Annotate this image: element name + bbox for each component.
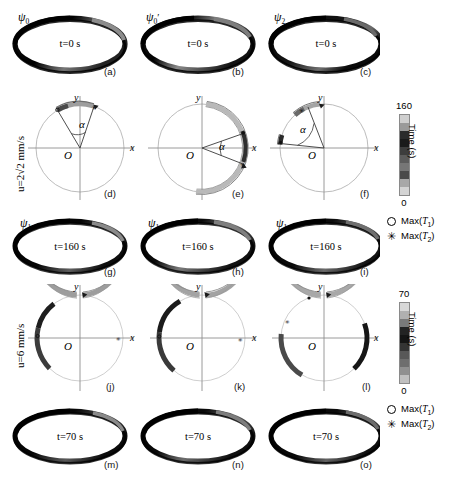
svg-text:✳: ✳ [285, 319, 290, 325]
row-circles-1-graphics: ✳ ✳ [16, 96, 388, 200]
time-label-a: t=0 s [42, 38, 98, 49]
legend-entry-max-t2-b: ✳ Max(T2) [386, 417, 435, 432]
panel-label-j: (j) [106, 381, 115, 392]
time-label-m: t=70 s [40, 431, 100, 442]
axis-origin-label-k: O [186, 340, 194, 352]
svg-text:✳: ✳ [240, 161, 245, 168]
axis-x-label-e: x [252, 142, 256, 153]
axis-origin-label-j: O [64, 340, 72, 352]
axis-origin-label-l: O [308, 340, 316, 352]
colorbar-160-min: 0 [389, 197, 419, 208]
colorbar-segment [400, 359, 409, 367]
axis-y-label-k: y [196, 281, 200, 292]
circle-marker-icon [386, 216, 397, 227]
alpha-label-f: α [300, 123, 306, 135]
colorbar-segment [400, 375, 409, 383]
panel-label-k: (k) [234, 381, 245, 392]
alpha-label-d: α [79, 118, 85, 130]
legend-entry-max-t1-b: Max(T1) [386, 402, 435, 417]
legend-entry-max-t2: ✳ Max(T2) [386, 229, 435, 244]
panel-label-d: (d) [104, 188, 116, 199]
time-label-c: t=0 s [298, 38, 354, 49]
axis-x-label-d: x [130, 142, 134, 153]
time-label-g: t=160 s [38, 241, 102, 252]
colorbar-70-title: Time (s) [407, 312, 418, 346]
legend-label-max-t2: Max(T2) [401, 230, 435, 243]
panel-label-h: (h) [232, 266, 244, 277]
svg-text:✳: ✳ [299, 107, 304, 114]
psi-label-i: ψ1 [276, 216, 287, 232]
time-label-h: t=160 s [166, 241, 230, 252]
colorbar-70-max: 70 [389, 288, 419, 299]
row-circles-2-graphics: ✳ ✳ ✳ [16, 284, 388, 392]
axis-y-label-l: y [318, 281, 322, 292]
colorbar-segment [400, 303, 409, 311]
axis-y-label-j: y [74, 281, 78, 292]
colorbar-160-title: Time (s) [407, 124, 418, 158]
psi-label-h: ψ1 [148, 216, 159, 232]
legend-bottom: Max(T1) ✳ Max(T2) [386, 402, 435, 432]
psi-label-g: ψ1 [20, 216, 31, 232]
axis-origin-label-d: O [64, 149, 72, 161]
psi-label-b: ψ0′ [146, 10, 159, 26]
axis-origin-label-f: O [308, 149, 316, 161]
axis-x-label-j: x [130, 332, 134, 343]
panel-label-c: (c) [360, 66, 371, 77]
psi-label-a: ψ0 [18, 10, 29, 26]
colorbar-segment [400, 171, 409, 179]
panel-label-e: (e) [232, 188, 244, 199]
panel-label-a: (a) [104, 66, 116, 77]
figure-root: ψ0 ψ0′ ψ2 t=0 s t=0 s t=0 s (a) (b) (c) … [0, 0, 451, 485]
time-label-i: t=160 s [294, 241, 358, 252]
legend-label-max-t1-b: Max(T1) [401, 403, 435, 416]
panel-label-g: (g) [104, 266, 116, 277]
time-label-o: t=70 s [296, 431, 356, 442]
legend-entry-max-t1: Max(T1) [386, 214, 435, 229]
legend-label-max-t2-b: Max(T2) [401, 418, 435, 431]
colorbar-segment [400, 163, 409, 171]
axis-origin-label-e: O [186, 149, 194, 161]
legend-top: Max(T1) ✳ Max(T2) [386, 214, 435, 244]
alpha-label-e: α [219, 140, 225, 152]
asterisk-marker-icon: ✳ [386, 419, 397, 430]
svg-text:✳: ✳ [92, 104, 97, 111]
time-label-n: t=70 s [168, 431, 228, 442]
colorbar-segment [400, 187, 409, 195]
axis-x-label-l: x [374, 332, 378, 343]
svg-text:✳: ✳ [116, 336, 121, 342]
colorbar-segment [400, 179, 409, 187]
colorbar-70-min: 0 [389, 385, 419, 396]
panel-label-i: (i) [360, 266, 369, 277]
legend-label-max-t1: Max(T1) [401, 215, 435, 228]
axis-x-label-k: x [252, 332, 256, 343]
time-label-b: t=0 s [170, 38, 226, 49]
axis-y-label-f: y [318, 92, 322, 103]
axis-y-label-d: y [74, 92, 78, 103]
svg-text:✳: ✳ [238, 337, 243, 343]
panel-label-m: (m) [104, 459, 119, 470]
panel-label-l: (l) [362, 381, 371, 392]
panel-label-n: (n) [232, 459, 244, 470]
colorbar-segment [400, 367, 409, 375]
axis-y-label-e: y [196, 92, 200, 103]
panel-label-o: (o) [360, 459, 372, 470]
circle-marker-icon [386, 404, 397, 415]
panel-label-f: (f) [360, 188, 369, 199]
colorbar-segment [400, 351, 409, 359]
asterisk-marker-icon: ✳ [386, 231, 397, 242]
psi-label-c: ψ2 [274, 10, 285, 26]
colorbar-160-max: 160 [389, 100, 419, 111]
colorbar-segment [400, 115, 409, 123]
panel-label-b: (b) [232, 66, 244, 77]
axis-x-label-f: x [374, 142, 378, 153]
